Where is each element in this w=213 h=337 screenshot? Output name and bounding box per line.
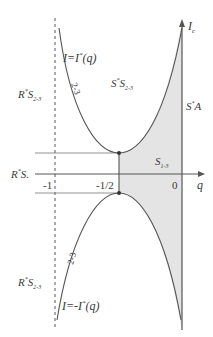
lower-curve-equation: I=-I*(q) — [61, 299, 100, 313]
tick-label-minus-1: -1 — [43, 179, 52, 191]
i-axis-arrow-icon — [179, 19, 185, 27]
upper-branch-label: 2-3 — [69, 81, 83, 96]
region-label-s-s23: S*S2-3 — [111, 77, 133, 91]
region-label-s-a: S*A — [186, 100, 202, 112]
tick-label-minus-half: -1/2 — [96, 179, 114, 191]
q-axis-arrow-icon — [198, 171, 205, 177]
q-axis-label: q — [197, 178, 203, 192]
i-axis-label: Ic — [187, 19, 196, 35]
tick-label-zero: 0 — [172, 179, 178, 191]
upper-curve-equation: I=I*(q) — [62, 51, 97, 65]
region-label-r-s23-lower: R*S2-3 — [17, 276, 41, 290]
lower-branch-label: 2-3 — [65, 251, 78, 266]
phase-diagram: Ic q -1 -1/2 0 I=I*(q) I=-I*(q) 2-3 2-3 … — [0, 0, 213, 337]
shaded-region-s13 — [119, 20, 182, 330]
region-label-r-s23-upper: R*S2-3 — [17, 88, 41, 102]
region-label-r-s: R*S. — [10, 168, 29, 180]
lower-extremum-point — [117, 191, 121, 195]
upper-extremum-point — [117, 151, 121, 155]
